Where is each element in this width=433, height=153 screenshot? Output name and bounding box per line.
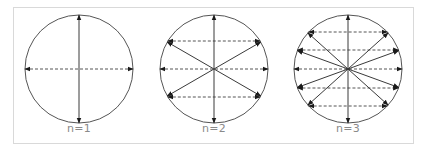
panel-n3 [294, 15, 402, 123]
panel-n2 [160, 15, 268, 123]
panel-label-n1: n=1 [49, 122, 109, 135]
panel-label-n2: n=2 [184, 122, 244, 135]
panel-n1 [25, 15, 133, 123]
panel-label-n3: n=3 [318, 122, 378, 135]
